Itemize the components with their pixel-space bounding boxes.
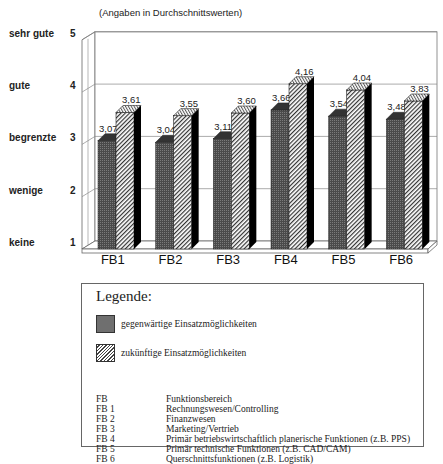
svg-text:FB2: FB2 <box>159 252 183 267</box>
svg-text:3,60: 3,60 <box>237 95 256 106</box>
svg-text:3,48: 3,48 <box>387 101 406 112</box>
svg-text:sehr gute: sehr gute <box>9 28 54 39</box>
svg-text:FB1: FB1 <box>101 252 125 267</box>
legend-item-current: gegenwärtige Einsatzmöglichkeiten <box>96 316 257 332</box>
svg-text:3,54: 3,54 <box>330 98 349 109</box>
svg-text:3,07: 3,07 <box>99 123 118 134</box>
svg-text:3: 3 <box>70 132 76 143</box>
svg-text:3,83: 3,83 <box>410 83 429 94</box>
legend-label: gegenwärtige Einsatzmöglichkeiten <box>121 319 257 329</box>
svg-text:gute: gute <box>9 80 31 91</box>
abbreviation-row: FB 3Marketing/Vertrieb <box>96 424 410 434</box>
bar-chart: 3,073,613,043,553,113,603,664,163,544,04… <box>0 0 443 280</box>
abbreviation-row: FB 1Rechnungswesen/Controlling <box>96 404 410 414</box>
legend-title: Legende: <box>96 288 152 305</box>
svg-text:3,04: 3,04 <box>157 124 176 135</box>
abbreviation-row: FB 5Primär technische Funktionen (z.B. C… <box>96 444 410 454</box>
svg-text:3,11: 3,11 <box>214 121 232 132</box>
legend-label: zukünftige Einsatzmöglichkeiten <box>121 348 246 358</box>
y-axis-labels: 1keine2wenige3begrenzte4gute5sehr gute <box>8 28 76 248</box>
svg-text:keine: keine <box>9 237 35 248</box>
svg-text:FB3: FB3 <box>216 252 240 267</box>
svg-text:2: 2 <box>70 185 76 196</box>
svg-text:FB6: FB6 <box>389 252 413 267</box>
svg-text:3,55: 3,55 <box>180 98 199 109</box>
svg-text:4,16: 4,16 <box>295 66 314 77</box>
svg-text:3,66: 3,66 <box>272 92 291 103</box>
svg-text:begrenzte: begrenzte <box>9 132 57 143</box>
svg-text:1: 1 <box>70 237 76 248</box>
svg-text:FB5: FB5 <box>332 252 356 267</box>
svg-text:4: 4 <box>70 80 76 91</box>
abbreviation-row: FB 6Querschnittsfunktionen (z.B. Logisti… <box>96 454 410 464</box>
abbreviation-row: FB 4Primär betriebswirtschaftlich planer… <box>96 434 410 444</box>
hatch-swatch-icon <box>96 344 115 362</box>
legend: Legende: gegenwärtige Einsatzmöglichkeit… <box>81 283 424 447</box>
dark-stipple-swatch-icon <box>96 315 115 333</box>
legend-item-future: zukünftige Einsatzmöglichkeiten <box>96 345 246 361</box>
svg-text:3,61: 3,61 <box>122 94 141 105</box>
x-axis-labels: FB1FB2FB3FB4FB5FB6 <box>101 252 413 267</box>
svg-text:4,04: 4,04 <box>353 72 372 83</box>
abbreviation-list: FBFunktionsbereich FB 1Rechnungswesen/Co… <box>96 394 410 464</box>
abbreviation-row: FB 2Finanzwesen <box>96 414 410 424</box>
abbreviation-row: FBFunktionsbereich <box>96 394 410 404</box>
svg-text:5: 5 <box>70 28 76 39</box>
svg-text:wenige: wenige <box>8 185 43 196</box>
chart-subtitle: (Angaben in Durchschnittswerten) <box>99 7 242 18</box>
svg-text:FB4: FB4 <box>274 252 298 267</box>
